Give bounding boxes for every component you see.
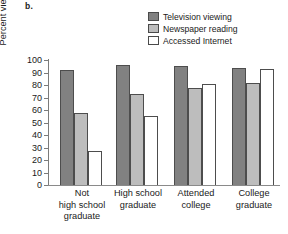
y-axis-tick-mark (44, 160, 48, 161)
y-axis-tick-label: 100 (27, 55, 42, 65)
y-axis-tick-mark (44, 60, 48, 61)
bar (74, 113, 88, 186)
bar (60, 70, 74, 185)
y-axis-tick-mark (44, 185, 48, 186)
legend-swatch-icon (148, 36, 159, 45)
y-axis-tick-label: 10 (32, 168, 42, 178)
legend-item-newspaper-reading: Newspaper reading (148, 23, 238, 34)
bar (202, 84, 216, 185)
y-axis-tick-mark (44, 110, 48, 111)
y-axis-tick-mark (44, 98, 48, 99)
y-axis-title: Percent viewing or reading (0, 0, 8, 57)
bar (144, 116, 158, 185)
y-axis-tick-label: 30 (32, 143, 42, 153)
y-axis-tick-label: 70 (32, 93, 42, 103)
y-axis-title-text: Percent viewing or reading (0, 0, 8, 57)
y-axis-tick-label: 60 (32, 105, 42, 115)
y-axis-tick-label: 50 (32, 118, 42, 128)
x-axis-category-label: College graduate (214, 188, 288, 211)
y-axis-tick-mark (44, 85, 48, 86)
y-axis-tick-label: 90 (32, 68, 42, 78)
y-axis-tick-label: 40 (32, 130, 42, 140)
bar (88, 151, 102, 185)
x-axis-line (48, 185, 280, 186)
bar (116, 65, 130, 185)
legend-item-label: Television viewing (163, 12, 232, 22)
bar (130, 94, 144, 185)
bar (260, 69, 274, 185)
bar (232, 68, 246, 186)
y-axis-tick-mark (44, 123, 48, 124)
bar (188, 88, 202, 186)
y-axis-tick-label: 80 (32, 80, 42, 90)
bar (246, 83, 260, 186)
legend-swatch-icon (148, 12, 159, 21)
legend-item-accessed-internet: Accessed Internet (148, 35, 238, 46)
panel-label: b. (25, 1, 33, 11)
y-axis-tick-mark (44, 173, 48, 174)
legend-swatch-icon (148, 24, 159, 33)
legend-item-label: Accessed Internet (163, 36, 232, 46)
bar (174, 66, 188, 185)
y-axis-tick-label: 20 (32, 155, 42, 165)
y-axis-tick-mark (44, 73, 48, 74)
plot-area: 1009080706050403020100 Not high school g… (48, 60, 280, 185)
y-axis-line (48, 59, 49, 186)
y-axis-tick-mark (44, 135, 48, 136)
y-axis-tick-mark (44, 148, 48, 149)
legend-item-label: Newspaper reading (163, 24, 238, 34)
legend-item-television-viewing: Television viewing (148, 11, 238, 22)
chart-legend: Television viewing Newspaper reading Acc… (148, 11, 238, 46)
